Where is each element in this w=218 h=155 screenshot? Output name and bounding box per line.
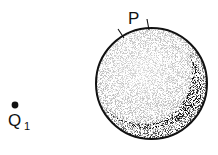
patch-label: P xyxy=(128,9,139,28)
diagram-canvas: P Q 1 xyxy=(0,0,218,155)
charge-dot-icon xyxy=(12,102,19,109)
charge-subscript: 1 xyxy=(24,120,30,132)
sphere xyxy=(96,28,208,140)
charge-label: Q xyxy=(8,111,21,130)
point-charge: Q 1 xyxy=(8,102,30,132)
